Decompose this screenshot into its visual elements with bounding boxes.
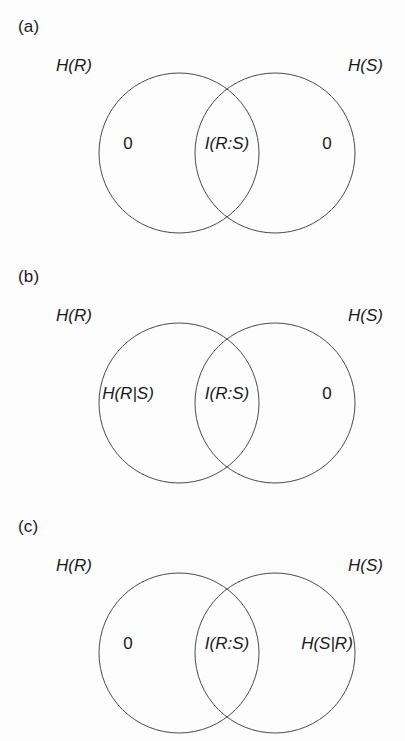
region-left-b: H(R|S) [102,385,154,402]
venn-diagram-c [0,500,405,741]
left-circle-c [99,573,259,733]
venn-diagram-b [0,250,405,500]
panel-b: (b) H(R) H(S) H(R|S) I(R:S) 0 [0,250,405,500]
region-center-b: I(R:S) [205,385,249,402]
panel-a: (a) H(R) H(S) 0 I(R:S) 0 [0,0,405,250]
right-circle-a [195,73,355,233]
region-right-a: 0 [322,135,331,152]
set-label-right-a: H(S) [348,57,383,74]
set-label-left-b: H(R) [56,307,92,324]
region-center-a: I(R:S) [205,135,249,152]
region-right-b: 0 [322,385,331,402]
left-circle-b [99,323,259,483]
venn-diagram-a [0,0,405,250]
region-left-a: 0 [123,135,132,152]
venn-figure: (a) H(R) H(S) 0 I(R:S) 0 (b) H(R) H(S) H… [0,0,405,741]
right-circle-b [195,323,355,483]
set-label-right-c: H(S) [348,557,383,574]
panel-c: (c) H(R) H(S) 0 I(R:S) H(S|R) [0,500,405,741]
set-label-right-b: H(S) [348,307,383,324]
right-circle-c [195,573,355,733]
region-center-c: I(R:S) [205,635,249,652]
set-label-left-a: H(R) [56,57,92,74]
region-right-c: H(S|R) [301,635,353,652]
region-left-c: 0 [123,635,132,652]
left-circle-a [99,73,259,233]
set-label-left-c: H(R) [56,557,92,574]
